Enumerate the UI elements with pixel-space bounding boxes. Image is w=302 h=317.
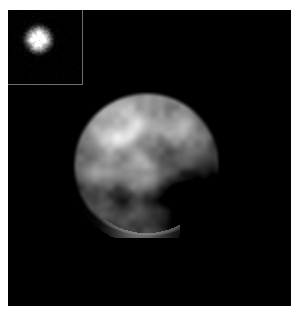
pluto-disk [73, 92, 219, 238]
raw-observation-inset [8, 10, 83, 85]
pluto-disk-canvas [73, 92, 219, 238]
pluto-image-panel [8, 10, 291, 306]
raw-observation-canvas [8, 10, 82, 84]
figure-root: Grayscale telescope image of Pluto's dis… [0, 0, 302, 317]
